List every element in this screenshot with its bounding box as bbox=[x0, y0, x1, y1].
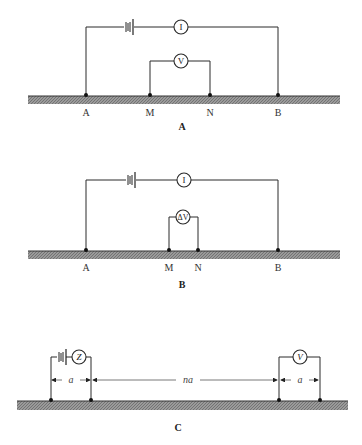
voltmeter-icon: V bbox=[174, 54, 188, 68]
ammeter-icon: I bbox=[174, 20, 188, 34]
battery-icon bbox=[59, 349, 66, 365]
electrode-label: N bbox=[206, 107, 213, 118]
electrode-label: N bbox=[194, 262, 201, 273]
electrode-a bbox=[84, 248, 88, 252]
dimension-right-a: a bbox=[281, 374, 318, 385]
delta-voltmeter-icon: ΔV bbox=[176, 210, 190, 224]
battery-icon bbox=[126, 19, 133, 35]
electrode-b bbox=[276, 93, 280, 97]
electrode-b bbox=[276, 248, 280, 252]
ground-surface bbox=[28, 251, 340, 259]
electrode-m bbox=[167, 248, 171, 252]
electrode-n bbox=[196, 248, 200, 252]
svg-text:I: I bbox=[180, 22, 183, 32]
dimension-left-a: a bbox=[52, 374, 90, 385]
ammeter-icon: I bbox=[177, 173, 191, 187]
svg-text:V: V bbox=[178, 56, 185, 66]
svg-text:na: na bbox=[183, 374, 193, 385]
panel-caption: A bbox=[178, 121, 186, 132]
ground-surface bbox=[17, 401, 348, 410]
panel-caption: B bbox=[179, 279, 186, 290]
battery-icon bbox=[128, 172, 135, 188]
electrode-label: M bbox=[165, 262, 174, 273]
ground-surface bbox=[28, 96, 340, 104]
svg-text:a: a bbox=[69, 374, 74, 385]
electrode-label: B bbox=[275, 107, 282, 118]
electrode-label: M bbox=[146, 107, 155, 118]
impedance-meter-icon: Z bbox=[72, 350, 86, 364]
panel-a: I V A M N B A bbox=[28, 19, 340, 132]
electrode-label: B bbox=[275, 262, 282, 273]
panel-c: Z V a na a C bbox=[17, 349, 348, 433]
panel-caption: C bbox=[174, 422, 181, 433]
electrode-label: A bbox=[82, 107, 90, 118]
svg-text:I: I bbox=[183, 175, 186, 185]
potential-electrode-2 bbox=[318, 398, 322, 402]
svg-text:ΔV: ΔV bbox=[178, 213, 189, 222]
dimension-middle-na: na bbox=[93, 374, 277, 385]
svg-text:a: a bbox=[298, 374, 303, 385]
panel-b: I ΔV A M N B B bbox=[28, 172, 340, 290]
electrode-n bbox=[208, 93, 212, 97]
electrode-array-diagram: I V A M N B A I bbox=[0, 0, 362, 445]
electrode-label: A bbox=[82, 262, 90, 273]
current-electrode-2 bbox=[89, 398, 93, 402]
current-electrode-1 bbox=[49, 398, 53, 402]
electrode-m bbox=[148, 93, 152, 97]
voltmeter-icon: V bbox=[293, 350, 307, 364]
potential-electrode-1 bbox=[277, 398, 281, 402]
electrode-a bbox=[84, 93, 88, 97]
